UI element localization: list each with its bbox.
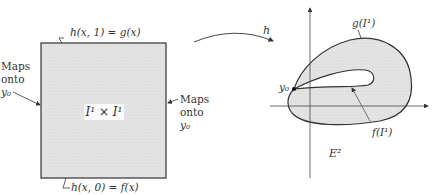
top-edge-label: h(x, 1) = g(x): [70, 26, 141, 38]
left-side-label-line2: onto: [1, 73, 25, 85]
map-arrow: [194, 33, 273, 42]
right-side-arrow: [168, 99, 178, 103]
homotopy-diagram: I¹ × I¹ h(x, 1) = g(x) h(x, 0) = f(x) Ma…: [0, 0, 439, 195]
map-arrow-figure: h: [194, 24, 273, 42]
square-label: I¹ × I¹: [85, 105, 123, 119]
inner-curve-label: f(I¹): [371, 126, 392, 138]
unit-square-figure: I¹ × I¹ h(x, 1) = g(x) h(x, 0) = f(x) Ma…: [0, 26, 209, 193]
top-label-leader: [59, 38, 64, 43]
right-side-label-line1: Maps: [180, 93, 209, 105]
space-label: E²: [328, 147, 341, 160]
map-label: h: [263, 24, 270, 37]
outer-curve-label: g(I¹): [352, 17, 375, 29]
plane-figure: y₀ g(I¹) f(I¹) E²: [270, 8, 428, 178]
left-side-label-line1: Maps: [1, 60, 30, 72]
bottom-label-leader: [63, 178, 70, 188]
basepoint-label: y₀: [278, 81, 290, 93]
outer-curve-leader: [358, 30, 361, 38]
basepoint-dot: [292, 87, 296, 91]
left-side-arrow: [13, 92, 40, 105]
right-side-label-line3: y₀: [179, 119, 191, 131]
bottom-edge-label: h(x, 0) = f(x): [71, 181, 139, 193]
left-side-label-line3: y₀: [0, 86, 12, 98]
right-side-label-line2: onto: [180, 106, 204, 118]
